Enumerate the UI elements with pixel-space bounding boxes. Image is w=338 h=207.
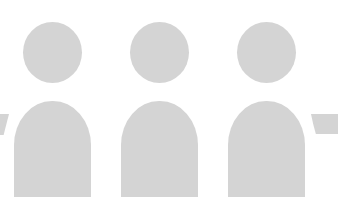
- person-icon: [14, 0, 92, 207]
- people-graphic: [0, 0, 338, 207]
- person-body: [14, 101, 91, 197]
- partial-person-left-icon: [0, 114, 9, 135]
- person-icon: [228, 0, 306, 207]
- person-body: [121, 101, 198, 197]
- person-head: [130, 22, 189, 83]
- person-body: [228, 101, 305, 197]
- person-head: [237, 22, 296, 83]
- person-head: [23, 22, 82, 83]
- person-icon: [121, 0, 199, 207]
- partial-person-right-icon: [311, 114, 338, 134]
